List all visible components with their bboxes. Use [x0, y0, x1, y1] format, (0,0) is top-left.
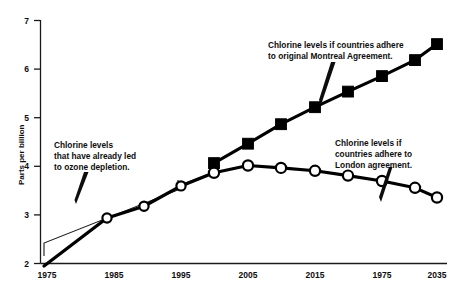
y-tick-label-2: 2 — [24, 259, 29, 269]
y-axis-ticks — [34, 21, 41, 264]
annotation-montreal: Chlorine levels if countries adhere to o… — [268, 40, 404, 62]
x-tick-label-4: 2015 — [306, 270, 325, 280]
data-point — [343, 171, 353, 181]
data-point — [410, 55, 421, 66]
y-axis-label: Parts per billion — [17, 124, 26, 185]
data-point — [432, 192, 442, 202]
y-tick-label-6: 6 — [24, 64, 29, 74]
x-axis-tick-labels: 1975 1985 1995 2005 2015 1975 2035 — [38, 270, 447, 280]
annotation-london: Chlorine levels if countries adhere to L… — [335, 138, 412, 170]
y-tick-label-5: 5 — [24, 113, 29, 123]
data-point — [410, 183, 420, 193]
x-tick-label-5: 1975 — [373, 270, 392, 280]
x-tick-label-6: 2035 — [428, 270, 447, 280]
annotation-historical: Chlorine levels that have already led to… — [54, 140, 136, 172]
data-point — [276, 119, 287, 130]
data-point — [343, 86, 354, 97]
y-tick-label-3: 3 — [24, 210, 29, 220]
x-tick-label-0: 1975 — [38, 270, 57, 280]
data-point — [243, 138, 254, 149]
y-tick-label-4: 4 — [24, 161, 29, 171]
data-point — [377, 71, 388, 82]
x-tick-label-2: 1995 — [172, 270, 191, 280]
series-line-historical — [44, 173, 214, 266]
data-point — [310, 102, 321, 113]
data-point — [243, 160, 253, 170]
x-tick-label-1: 1985 — [105, 270, 124, 280]
data-point — [176, 181, 185, 190]
data-point — [310, 166, 320, 176]
x-tick-label-3: 2005 — [239, 270, 258, 280]
data-point — [102, 213, 111, 222]
data-point — [209, 168, 219, 178]
annotation-pointer-historical — [75, 172, 89, 204]
data-point — [139, 202, 148, 211]
y-tick-label-7: 7 — [24, 16, 29, 26]
data-point — [276, 163, 286, 173]
chart-container: Parts per billion 7 6 5 4 3 2 1975 1985 … — [0, 0, 457, 290]
data-point — [432, 39, 443, 50]
